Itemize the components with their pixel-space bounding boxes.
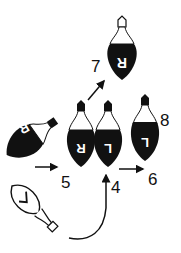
- bulb-left-icon: [0, 108, 64, 166]
- diagram-canvas: R R R L L: [0, 0, 181, 253]
- bulb-right-icon: L: [131, 94, 159, 161]
- bulb-mid-left-icon: R: [67, 100, 95, 167]
- bulb-mid-right-icon: L: [94, 100, 122, 167]
- arrow-to-4: [69, 175, 106, 239]
- svg-text:L: L: [141, 135, 149, 150]
- svg-text:R: R: [76, 141, 86, 156]
- label-5: 5: [61, 174, 70, 191]
- bulb-rotation-diagram: R R R L L 7 8 5: [0, 0, 181, 253]
- bulb-top-icon: R: [107, 16, 136, 80]
- arrow-to-7: [88, 81, 104, 100]
- label-6: 6: [148, 171, 157, 188]
- svg-text:L: L: [104, 141, 112, 156]
- label-7: 7: [91, 58, 100, 75]
- label-4: 4: [111, 179, 120, 196]
- label-8: 8: [160, 112, 169, 129]
- svg-text:R: R: [117, 55, 127, 71]
- bulb-bottom-outline-icon: [5, 179, 63, 237]
